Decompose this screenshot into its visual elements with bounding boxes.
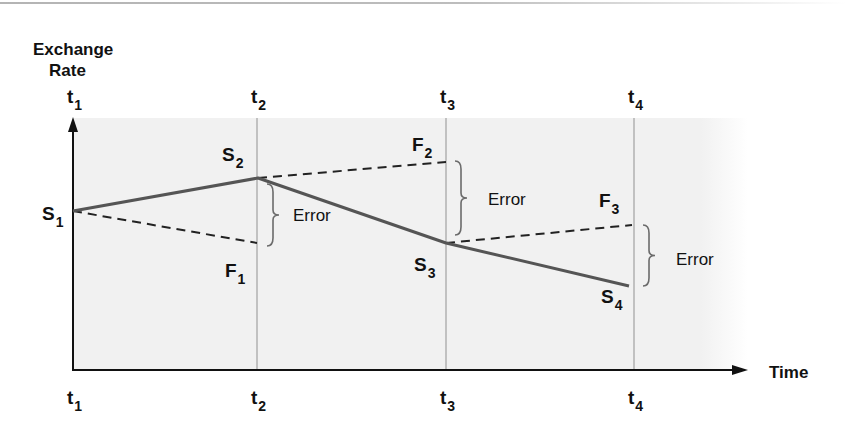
spot-label-S4-subscript: 4 (615, 297, 623, 313)
time-label-top-t2-subscript: 2 (258, 97, 266, 113)
forward-label-F2-subscript: 2 (425, 145, 433, 161)
time-label-bottom-t3-subscript: 3 (447, 398, 455, 414)
time-label-bottom-t4-base: t (628, 387, 635, 408)
time-label-bottom-t3-base: t (440, 387, 447, 408)
time-label-bottom-t1-subscript: 1 (74, 398, 82, 414)
spot-label-S2-base: S (222, 144, 235, 165)
time-label-top-t2: t2 (251, 86, 266, 113)
forward-label-F1-base: F (225, 260, 237, 281)
time-label-top-t3: t3 (440, 86, 455, 113)
exchange-rate-diagram: Exchange Rate Time ErrorErrorError F1F2F… (0, 0, 846, 439)
time-label-top-t3-subscript: 3 (447, 97, 455, 113)
spot-label-S1: S1 (42, 203, 64, 230)
y-axis-title-line1: Exchange (33, 40, 113, 59)
time-label-top-t1-base: t (67, 86, 74, 107)
spot-label-S4-base: S (601, 286, 614, 307)
x-axis-title: Time (769, 363, 808, 382)
time-label-bottom-t2: t2 (251, 387, 266, 414)
time-label-bottom-t4-subscript: 4 (635, 398, 643, 414)
spot-label-S1-subscript: 1 (56, 214, 64, 230)
time-label-top-t1: t1 (67, 86, 82, 113)
time-label-bottom-t1-base: t (67, 387, 74, 408)
time-label-top-t4-subscript: 4 (635, 97, 643, 113)
time-label-bottom-t3: t3 (440, 387, 455, 414)
time-label-top-t2-base: t (251, 86, 258, 107)
time-label-top-t1-subscript: 1 (74, 97, 82, 113)
time-label-bottom-t4: t4 (628, 387, 643, 414)
forward-label-F3-subscript: 3 (612, 201, 620, 217)
spot-label-S1-base: S (42, 203, 55, 224)
time-label-bottom-t1: t1 (67, 387, 82, 414)
time-label-bottom-t2-subscript: 2 (258, 398, 266, 414)
time-label-top-t4: t4 (628, 86, 643, 113)
spot-label-S3-base: S (414, 254, 427, 275)
error-label: Error (293, 206, 331, 225)
forward-label-F1-subscript: 1 (238, 271, 246, 287)
error-label: Error (676, 250, 714, 269)
spot-label-S2-subscript: 2 (236, 155, 244, 171)
error-label: Error (488, 190, 526, 209)
spot-label-S3-subscript: 3 (428, 265, 436, 281)
forward-label-F3-base: F (599, 190, 611, 211)
time-label-bottom-t2-base: t (251, 387, 258, 408)
time-label-top-t4-base: t (628, 86, 635, 107)
forward-label-F2-base: F (412, 134, 424, 155)
plot-area (74, 118, 748, 370)
y-axis-title-line2: Rate (49, 61, 86, 80)
time-label-top-t3-base: t (440, 86, 447, 107)
